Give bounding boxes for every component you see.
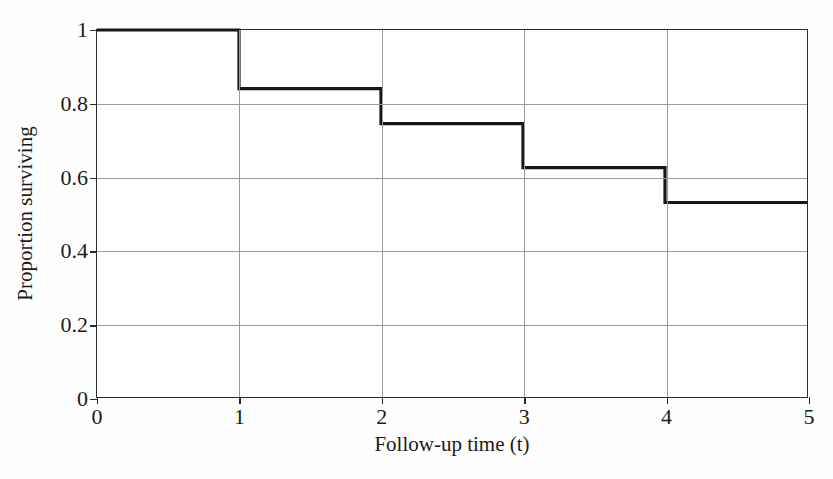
- y-axis-tick: [90, 178, 97, 179]
- x-axis-tick: [239, 397, 240, 404]
- x-axis-tick: [524, 397, 525, 404]
- survival-curve-figure: Proportion surviving 00.20.40.60.8101234…: [0, 0, 833, 479]
- y-axis-tick: [90, 30, 97, 31]
- y-axis-tick-label: 0.2: [61, 314, 89, 336]
- gridline-horizontal: [97, 104, 807, 105]
- y-axis-tick: [90, 399, 97, 400]
- x-axis-tick-label: 2: [376, 406, 387, 428]
- y-axis-tick-label: 0: [77, 388, 88, 410]
- x-axis-tick: [382, 397, 383, 404]
- y-axis-tick-label: 0.4: [61, 240, 89, 262]
- x-axis-title-text: Follow-up time (t): [374, 432, 529, 456]
- y-axis-tick: [90, 251, 97, 252]
- plot-area: 00.20.40.60.81012345: [96, 29, 808, 398]
- y-axis-tick-label: 0.6: [61, 167, 89, 189]
- x-axis-tick-label: 0: [92, 406, 103, 428]
- x-axis-tick: [667, 397, 668, 404]
- gridline-vertical: [239, 30, 240, 397]
- y-axis-title-text: Proportion surviving: [13, 126, 38, 300]
- y-axis-tick-label: 1: [77, 19, 88, 41]
- y-axis-tick: [90, 104, 97, 105]
- x-axis-tick-label: 5: [804, 406, 815, 428]
- x-axis-tick: [97, 397, 98, 404]
- x-axis-tick-label: 1: [234, 406, 245, 428]
- gridline-vertical: [524, 30, 525, 397]
- gridline-vertical: [382, 30, 383, 397]
- x-axis-tick-label: 4: [661, 406, 672, 428]
- y-axis-tick: [90, 325, 97, 326]
- step-curve: [97, 30, 807, 397]
- gridline-vertical: [667, 30, 668, 397]
- y-axis-tick-label: 0.8: [61, 93, 89, 115]
- x-axis-title: Follow-up time (t): [96, 432, 808, 457]
- y-axis-title: Proportion surviving: [10, 29, 40, 398]
- x-axis-tick-label: 3: [519, 406, 530, 428]
- gridline-horizontal: [97, 178, 807, 179]
- x-axis-tick: [809, 397, 810, 404]
- gridline-horizontal: [97, 325, 807, 326]
- gridline-horizontal: [97, 251, 807, 252]
